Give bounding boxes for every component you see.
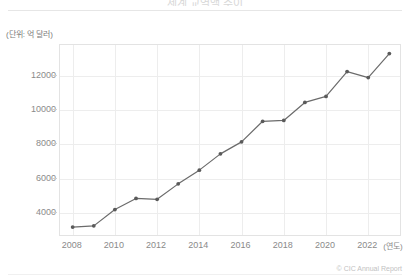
data-point-marker bbox=[303, 101, 307, 105]
x-axis-tick-label: 2008 bbox=[62, 240, 82, 250]
data-point-marker bbox=[387, 52, 391, 56]
bottom-divider bbox=[8, 274, 402, 275]
series-line bbox=[73, 54, 390, 227]
data-point-marker bbox=[345, 70, 349, 74]
data-point-marker bbox=[366, 76, 370, 80]
y-axis-tick-mark bbox=[52, 109, 57, 110]
credit-text: © CIC Annual Report bbox=[337, 265, 402, 272]
line-series bbox=[60, 45, 402, 237]
x-axis-tick-label: 2018 bbox=[273, 240, 293, 250]
chart-page: 세계 교역액 추이 (단위: 억 달러) 4000600080001000012… bbox=[0, 0, 410, 278]
data-point-marker bbox=[92, 224, 96, 228]
y-axis-tick-mark bbox=[52, 178, 57, 179]
page-title: 세계 교역액 추이 bbox=[0, 0, 410, 6]
data-point-marker bbox=[261, 119, 265, 123]
y-axis-tick-mark bbox=[52, 75, 57, 76]
data-point-marker bbox=[113, 208, 117, 212]
y-axis-unit-label: (단위: 억 달러) bbox=[6, 28, 53, 39]
x-axis-tick-label: 2016 bbox=[231, 240, 251, 250]
x-axis-tick-label: 2010 bbox=[104, 240, 124, 250]
data-point-marker bbox=[134, 197, 138, 201]
x-axis-unit-label: (연도) bbox=[383, 240, 402, 251]
x-axis-tick-label: 2012 bbox=[146, 240, 166, 250]
y-axis-tick-mark bbox=[52, 212, 57, 213]
data-point-marker bbox=[240, 140, 244, 144]
data-point-marker bbox=[155, 197, 159, 201]
data-point-marker bbox=[71, 225, 75, 229]
x-axis-tick-label: 2020 bbox=[315, 240, 335, 250]
y-axis-tick-mark bbox=[52, 143, 57, 144]
plot-area bbox=[59, 44, 401, 236]
data-point-marker bbox=[197, 168, 201, 172]
data-point-marker bbox=[324, 95, 328, 99]
data-point-marker bbox=[176, 182, 180, 186]
top-divider bbox=[8, 10, 402, 11]
data-point-marker bbox=[219, 152, 223, 156]
data-point-marker bbox=[282, 119, 286, 123]
x-axis-tick-label: 2014 bbox=[188, 240, 208, 250]
x-axis-tick-label: 2022 bbox=[357, 240, 377, 250]
